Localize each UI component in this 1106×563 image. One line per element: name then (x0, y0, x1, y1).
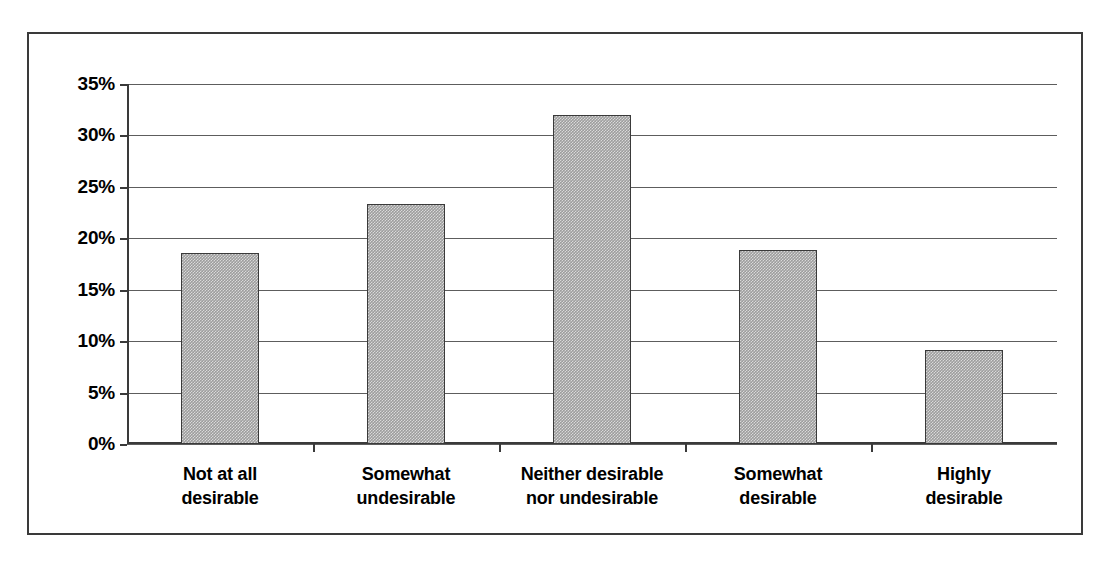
y-axis-tick-label: 15% (78, 279, 115, 301)
y-axis-tick-mark (120, 444, 127, 446)
x-axis-category-label: Neither desirable nor undesirable (521, 462, 664, 511)
y-axis-tick-mark (120, 290, 127, 292)
plot-area: 0%5%10%15%20%25%30%35% Not at all desira… (127, 84, 1057, 444)
bar (925, 350, 1003, 444)
y-axis-tick-label: 0% (88, 433, 115, 455)
y-axis-line (127, 84, 129, 444)
chart-frame: 0%5%10%15%20%25%30%35% Not at all desira… (27, 32, 1083, 535)
bar (181, 253, 259, 444)
x-axis-category-label: Highly desirable (918, 462, 1011, 511)
y-axis-tick-label: 5% (88, 382, 115, 404)
gridline (127, 444, 1057, 445)
bar (367, 204, 445, 444)
x-axis-category-label: Not at all desirable (181, 462, 258, 511)
y-axis-tick-mark (120, 238, 127, 240)
y-axis-tick-mark (120, 187, 127, 189)
gridline (127, 84, 1057, 85)
bar (739, 250, 817, 444)
x-axis-tick-mark (685, 444, 687, 452)
y-axis-tick-label: 20% (78, 227, 115, 249)
x-axis-tick-mark (871, 444, 873, 452)
y-axis-tick-label: 35% (78, 73, 115, 95)
y-axis-tick-mark (120, 84, 127, 86)
x-axis-tick-mark (499, 444, 501, 452)
y-axis-tick-label: 30% (78, 124, 115, 146)
x-axis-category-label: Somewhat undesirable (357, 462, 456, 511)
y-axis-tick-label: 10% (78, 330, 115, 352)
x-axis-tick-mark (313, 444, 315, 452)
x-axis-category-label: Somewhat desirable (734, 462, 822, 511)
y-axis-tick-label: 25% (78, 176, 115, 198)
y-axis-tick-mark (120, 341, 127, 343)
bar (553, 115, 631, 444)
y-axis-tick-mark (120, 393, 127, 395)
y-axis-tick-mark (120, 135, 127, 137)
